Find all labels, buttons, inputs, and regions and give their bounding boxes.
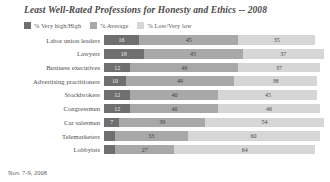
bar-segment: 12: [104, 90, 130, 100]
bar-segment: 39: [119, 118, 205, 128]
chart-legend: % Very high/High % Average % Low/Very lo…: [4, 20, 324, 30]
bar-segment: 49: [126, 76, 234, 86]
legend-label-average: % Average: [100, 22, 128, 29]
chart-row: Telemarketers3360: [4, 130, 324, 142]
stacked-bar: 184537: [104, 49, 324, 59]
category-label: Lobbyists: [4, 146, 104, 153]
stacked-bar: 3360: [104, 131, 324, 141]
chart-row: Stockbrokers124045: [4, 89, 324, 101]
chart-row: Lobbyists2764: [4, 144, 324, 156]
chart-row: Advertising practitioners104938: [4, 75, 324, 87]
chart-row: Car salesmen73954: [4, 116, 324, 128]
chart-row: Labor union leaders164535: [4, 34, 324, 46]
bar-segment: 64: [174, 145, 315, 155]
stacked-bar: 124045: [104, 90, 324, 100]
chart-footnote: Nov. 7-9, 2008: [8, 169, 47, 176]
bar-segment: 46: [218, 104, 319, 114]
bar-segment: 40: [130, 104, 218, 114]
stacked-bar: 104938: [104, 76, 324, 86]
bar-segment: 37: [238, 63, 319, 73]
bar-segment: 45: [139, 35, 238, 45]
bar-segment: 27: [115, 145, 174, 155]
bar-segment: 10: [104, 76, 126, 86]
bar-segment: 16: [104, 35, 139, 45]
bar-segment: [104, 131, 115, 141]
category-label: Advertising practitioners: [4, 78, 104, 85]
bar-segment: 12: [104, 104, 130, 114]
legend-swatch-icon-low-very-low: [137, 22, 144, 29]
category-label: Stockbrokers: [4, 91, 104, 98]
chart-row: Lawyers184537: [4, 48, 324, 60]
chart-container: Least Well-Rated Professions for Honesty…: [0, 0, 330, 182]
legend-swatch-icon-average: [90, 22, 97, 29]
bar-segment: 60: [188, 131, 320, 141]
stacked-bar: 124046: [104, 104, 324, 114]
bar-segment: 7: [104, 118, 119, 128]
bar-segment: 33: [115, 131, 188, 141]
legend-label-low-very-low: % Low/Very low: [147, 22, 191, 29]
legend-label-very-high-high: % Very high/High: [34, 22, 81, 29]
stacked-bar: 73954: [104, 118, 324, 128]
chart-title: Least Well-Rated Professions for Honesty…: [4, 5, 324, 15]
chart-plot-area: Labor union leaders164535Lawyers184537Bu…: [4, 34, 324, 156]
stacked-bar: 124937: [104, 63, 324, 73]
legend-item-low-very-low: % Low/Very low: [137, 22, 191, 29]
legend-item-average: % Average: [90, 22, 128, 29]
bar-segment: [104, 145, 115, 155]
bar-segment: 54: [205, 118, 324, 128]
legend-swatch-icon-very-high-high: [24, 22, 31, 29]
chart-row: Congressmen124046: [4, 102, 324, 114]
category-label: Car salesmen: [4, 119, 104, 126]
legend-item-very-high-high: % Very high/High: [24, 22, 81, 29]
bar-segment: 40: [130, 90, 218, 100]
bar-segment: 18: [104, 49, 144, 59]
category-label: Telemarketers: [4, 133, 104, 140]
bar-segment: 37: [243, 49, 324, 59]
category-label: Business executives: [4, 64, 104, 71]
chart-row: Business executives124937: [4, 61, 324, 73]
bar-segment: 12: [104, 63, 130, 73]
category-label: Congressmen: [4, 105, 104, 112]
bar-segment: 38: [234, 76, 318, 86]
category-label: Lawyers: [4, 50, 104, 57]
stacked-bar: 164535: [104, 35, 324, 45]
stacked-bar: 2764: [104, 145, 324, 155]
bar-segment: 35: [238, 35, 315, 45]
category-label: Labor union leaders: [4, 37, 104, 44]
bar-segment: 45: [218, 90, 317, 100]
bar-segment: 49: [130, 63, 238, 73]
bar-segment: 45: [144, 49, 243, 59]
